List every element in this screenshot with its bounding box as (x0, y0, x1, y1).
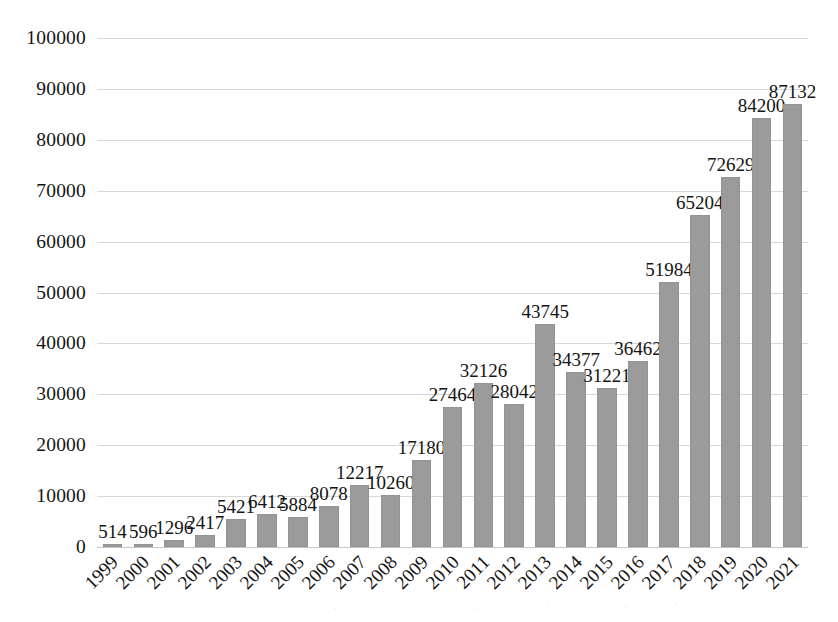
y-tick-label: 100000 (0, 28, 86, 48)
bar-value-label: 87132 (769, 82, 817, 101)
bar[interactable] (103, 544, 123, 547)
y-tick-label: 0 (0, 537, 86, 557)
bar-slot: 17180 (406, 38, 437, 547)
bar-slot: 36462 (623, 38, 654, 547)
x-tick-text: 2020 (731, 552, 771, 592)
bar[interactable] (628, 361, 648, 547)
bar[interactable] (474, 383, 494, 547)
x-tick-text: 2006 (298, 552, 338, 592)
bar-slot: 6412 (252, 38, 283, 547)
bar-slot: 10260 (375, 38, 406, 547)
x-tick-text: 2004 (236, 552, 276, 592)
bar-slot: 596 (128, 38, 159, 547)
bar-slot: 12217 (344, 38, 375, 547)
bar-slot: 1296 (159, 38, 190, 547)
y-tick-label: 20000 (0, 435, 86, 455)
bar[interactable] (257, 514, 277, 547)
bar-slot: 34377 (561, 38, 592, 547)
bar-slot: 43745 (530, 38, 561, 547)
bar-slot: 65204 (684, 38, 715, 547)
bar[interactable] (443, 407, 463, 547)
bar[interactable] (659, 282, 679, 547)
x-tick-text: 2021 (762, 552, 802, 592)
bar-slot: 32126 (468, 38, 499, 547)
bar[interactable] (319, 506, 339, 547)
x-tick-text: 2015 (576, 552, 616, 592)
bar[interactable] (504, 404, 524, 547)
bar[interactable] (721, 177, 741, 547)
scan-artifact-band (150, 598, 710, 614)
y-tick-label: 60000 (0, 232, 86, 252)
x-tick-text: 2009 (391, 552, 431, 592)
bar[interactable] (381, 495, 401, 547)
x-tick-text: 2017 (638, 552, 678, 592)
bar-value-label: 596 (129, 522, 158, 541)
bar-slot: 31221 (592, 38, 623, 547)
y-tick-label: 50000 (0, 283, 86, 303)
bar-series: 5145961296241754216412588480781221710260… (97, 38, 808, 547)
x-tick-text: 2019 (700, 552, 740, 592)
bar-slot: 28042 (499, 38, 530, 547)
bar[interactable] (226, 519, 246, 547)
bar[interactable] (164, 540, 184, 547)
bar-slot: 27464 (437, 38, 468, 547)
bar-slot: 51984 (653, 38, 684, 547)
y-tick-label: 80000 (0, 130, 86, 150)
bar-chart-figure: 0100002000030000400005000060000700008000… (0, 0, 838, 622)
y-tick-label: 90000 (0, 79, 86, 99)
y-tick-label: 40000 (0, 333, 86, 353)
bar-slot: 87132 (777, 38, 808, 547)
plot-area: 5145961296241754216412588480781221710260… (97, 38, 808, 547)
x-tick-text: 2008 (360, 552, 400, 592)
bar[interactable] (597, 388, 617, 547)
bar-slot: 5884 (282, 38, 313, 547)
bar[interactable] (350, 485, 370, 547)
x-tick-text: 2018 (669, 552, 709, 592)
bar-value-label: 514 (98, 522, 127, 541)
y-tick-label: 30000 (0, 384, 86, 404)
x-tick-text: 2016 (607, 552, 647, 592)
bar[interactable] (783, 104, 803, 548)
bar-slot: 84200 (746, 38, 777, 547)
bar[interactable] (752, 118, 772, 547)
bar-slot: 5421 (221, 38, 252, 547)
bar[interactable] (566, 372, 586, 547)
bar-value-label: 8078 (310, 484, 348, 503)
y-tick-label: 70000 (0, 181, 86, 201)
bar-slot: 2417 (190, 38, 221, 547)
bar[interactable] (412, 460, 432, 547)
y-tick-label: 10000 (0, 486, 86, 506)
gridline-0 (97, 547, 808, 548)
bar[interactable] (690, 215, 710, 547)
bar-slot: 514 (97, 38, 128, 547)
bar[interactable] (134, 544, 154, 547)
x-tick-text: 2007 (329, 552, 369, 592)
bar[interactable] (288, 517, 308, 547)
x-tick-text: 2005 (267, 552, 307, 592)
bar[interactable] (195, 535, 215, 547)
